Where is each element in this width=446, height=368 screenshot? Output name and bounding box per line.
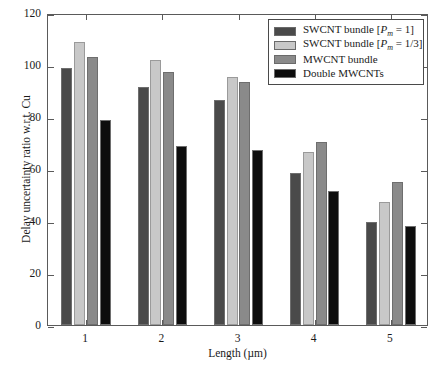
bar (100, 120, 111, 325)
y-tick-mark (48, 67, 54, 68)
bar (176, 146, 187, 325)
x-tick-label: 5 (375, 333, 405, 345)
bar (87, 57, 98, 325)
bar (316, 142, 327, 325)
legend-swatch-icon (274, 27, 296, 36)
figure-canvas: 020406080100120 12345 Length (µm) Delay … (0, 0, 446, 368)
bar (239, 82, 250, 325)
x-tick-label: 2 (146, 333, 176, 345)
y-tick-mark-right (421, 15, 427, 16)
bar (163, 72, 174, 326)
x-tick-label: 3 (223, 333, 253, 345)
bar (227, 77, 238, 325)
bar (303, 152, 314, 325)
x-tick-mark-top (86, 15, 87, 20)
y-tick-mark (48, 171, 54, 172)
y-tick-mark (48, 223, 54, 224)
bar (405, 226, 416, 325)
y-tick-mark (48, 275, 54, 276)
legend-item: SWCNT bundle [Pm = 1/3] (274, 38, 418, 52)
legend: SWCNT bundle [Pm = 1]SWCNT bundle [Pm = … (268, 19, 424, 85)
legend-item: Double MWCNTs (274, 66, 418, 80)
y-tick-label: 20 (3, 268, 41, 280)
y-tick-mark-right (421, 119, 427, 120)
legend-label: Double MWCNTs (303, 68, 384, 79)
y-tick-label: 120 (3, 8, 41, 20)
legend-swatch-icon (274, 55, 296, 64)
y-tick-mark-right (421, 275, 427, 276)
y-tick-mark (48, 327, 54, 328)
bar (61, 68, 72, 325)
legend-label: SWCNT bundle [Pm = 1/3] (303, 38, 422, 52)
y-tick-mark (48, 119, 54, 120)
y-tick-label: 0 (3, 320, 41, 332)
y-tick-mark (48, 15, 54, 16)
legend-label: SWCNT bundle [Pm = 1] (303, 24, 414, 38)
bar (252, 150, 263, 326)
bar (214, 100, 225, 325)
bar (138, 87, 149, 325)
y-tick-mark-right (421, 223, 427, 224)
x-axis-title: Length (µm) (47, 347, 428, 359)
legend-label: MWCNT bundle (303, 54, 378, 65)
x-tick-label: 4 (299, 333, 329, 345)
legend-swatch-icon (274, 41, 296, 50)
y-axis-title: Delay uncertainty ratio w.r.t. Cu (20, 69, 32, 269)
x-tick-mark-top (239, 15, 240, 20)
bar (290, 173, 301, 325)
bar (379, 202, 390, 326)
bar (366, 222, 377, 325)
bar (150, 60, 161, 325)
bar (328, 191, 339, 325)
x-tick-label: 1 (70, 333, 100, 345)
legend-item: SWCNT bundle [Pm = 1] (274, 24, 418, 38)
x-tick-mark-top (162, 15, 163, 20)
bar (74, 42, 85, 325)
legend-swatch-icon (274, 69, 296, 78)
bar (392, 182, 403, 325)
y-tick-mark-right (421, 327, 427, 328)
y-tick-mark-right (421, 171, 427, 172)
legend-item: MWCNT bundle (274, 52, 418, 66)
